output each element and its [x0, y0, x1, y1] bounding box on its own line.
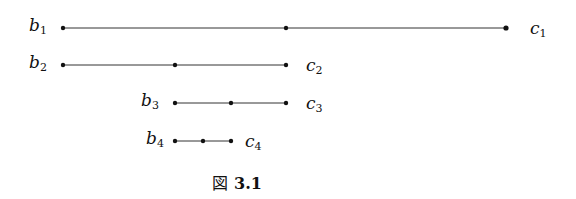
label-b1: b1	[29, 17, 47, 36]
label-c3: c3	[306, 95, 323, 114]
label-c1: c1	[530, 20, 547, 39]
caption-number: 3.1	[234, 174, 262, 193]
nested-segments-diagram	[0, 0, 576, 199]
caption-prefix: 図	[212, 174, 228, 193]
label-b3: b3	[141, 92, 159, 111]
label-c4: c4	[245, 133, 262, 152]
label-c2: c2	[306, 57, 323, 76]
label-b4: b4	[146, 130, 164, 149]
segment-4	[173, 139, 233, 143]
label-b2: b2	[29, 54, 47, 73]
figure-caption: 図3.1	[212, 170, 262, 194]
segment-2	[61, 63, 288, 67]
segment-3	[173, 101, 288, 105]
segment-1	[61, 25, 509, 30]
